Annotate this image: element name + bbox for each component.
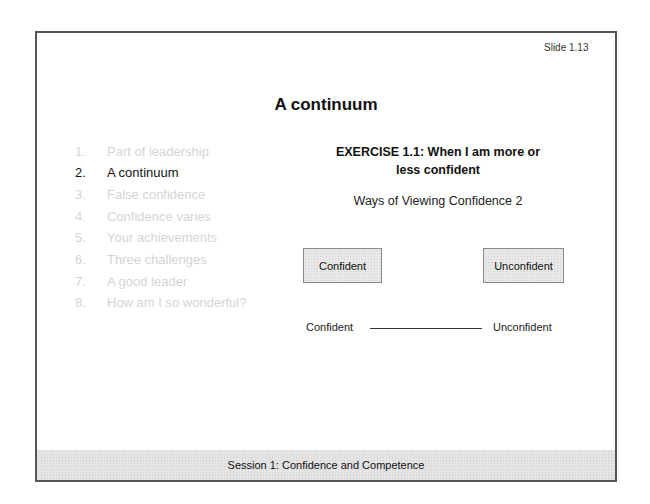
scale-left-label: Confident xyxy=(306,321,353,333)
agenda-item-label: Three challenges xyxy=(107,252,207,267)
agenda-item-label: Your achievements xyxy=(107,230,217,245)
agenda-item-label: False confidence xyxy=(107,187,205,202)
agenda-item-label: A good leader xyxy=(107,274,187,289)
slide-number: Slide 1.13 xyxy=(544,42,588,53)
exercise-title-line1: EXERCISE 1.1: When I am more or xyxy=(303,143,573,161)
agenda-list: 1. Part of leadership 2. A continuum 3. … xyxy=(75,33,295,333)
unconfident-box-label: Unconfident xyxy=(494,260,553,272)
agenda-item-label: Confidence varies xyxy=(107,209,211,224)
agenda-item-number: 1. xyxy=(75,144,86,159)
exercise-subtitle: Ways of Viewing Confidence 2 xyxy=(303,194,573,208)
unconfident-box: Unconfident xyxy=(483,248,564,283)
agenda-item-number: 6. xyxy=(75,252,86,267)
agenda-item-label: A continuum xyxy=(107,165,179,180)
agenda-item-number: 7. xyxy=(75,274,86,289)
slide: Slide 1.13 A continuum 1. Part of leader… xyxy=(35,31,617,482)
continuum-line xyxy=(370,328,482,329)
slide-footer: Session 1: Confidence and Competence xyxy=(37,450,615,480)
agenda-item-number: 2. xyxy=(75,165,86,180)
exercise-title: EXERCISE 1.1: When I am more or less con… xyxy=(303,143,573,179)
agenda-item-number: 5. xyxy=(75,230,86,245)
agenda-item-number: 8. xyxy=(75,295,86,310)
agenda-item-number: 3. xyxy=(75,187,86,202)
exercise-title-line2: less confident xyxy=(303,161,573,179)
agenda-item-label: Part of leadership xyxy=(107,144,209,159)
confident-box-label: Confident xyxy=(319,260,366,272)
agenda-item-number: 4. xyxy=(75,209,86,224)
footer-text: Session 1: Confidence and Competence xyxy=(228,459,425,471)
agenda-item-label: How am I so wonderful? xyxy=(107,295,246,310)
scale-right-label: Unconfident xyxy=(493,321,552,333)
confident-box: Confident xyxy=(303,248,382,283)
